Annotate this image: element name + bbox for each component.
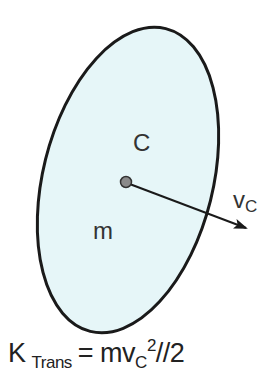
- center-of-mass-label: C: [133, 129, 150, 156]
- center-of-mass-dot: [121, 177, 132, 188]
- formula-equals-mv: = mv: [78, 338, 135, 368]
- formula-tail: //2: [156, 338, 185, 368]
- formula-superscript: 2: [147, 336, 156, 355]
- rigid-body-diagram: C m vC: [0, 0, 265, 387]
- formula-v-subscript: C: [135, 353, 147, 372]
- mass-label: m: [93, 217, 113, 244]
- formula-lhs-subscript: Trans: [32, 353, 72, 372]
- kinetic-energy-formula: KTrans= mvC2//2: [8, 338, 258, 369]
- velocity-label: vC: [233, 186, 257, 216]
- formula-lhs: K: [8, 338, 26, 368]
